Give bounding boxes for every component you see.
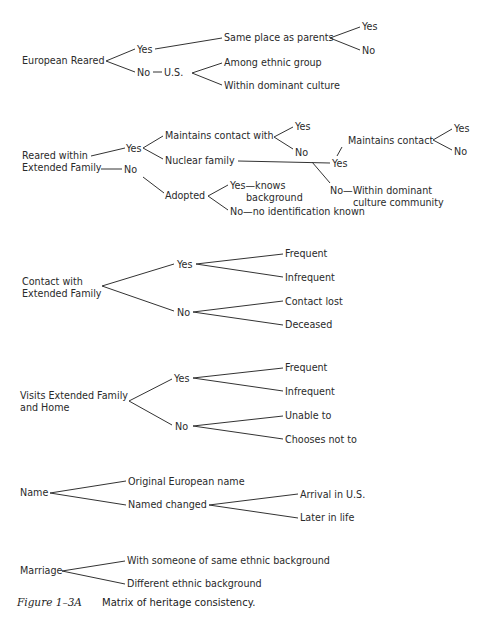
edge	[192, 63, 222, 73]
node-original: Original European name	[128, 476, 245, 487]
tree-visits: Visits Extended Family and Home Yes Freq…	[20, 362, 357, 445]
node-infrequent: Infrequent	[285, 386, 335, 397]
node-mcw-no: No	[295, 147, 308, 158]
edge	[129, 401, 172, 425]
edge	[62, 571, 125, 584]
edge	[208, 196, 228, 210]
edge	[102, 264, 174, 286]
node-us: U.S.	[164, 67, 183, 78]
node-same-place: Same place as parents	[224, 32, 334, 43]
edge	[337, 147, 342, 156]
edge	[106, 49, 135, 61]
edge	[274, 137, 293, 149]
node-mc-yes: Yes	[453, 123, 470, 134]
edge	[50, 493, 126, 505]
tree-marriage: Marriage With someone of same ethnic bac…	[20, 555, 330, 589]
node-within-dominant: Within dominant culture	[224, 80, 340, 91]
edge	[62, 561, 125, 571]
node-yes: Yes	[136, 44, 153, 55]
edge	[193, 378, 283, 391]
node-no: No	[175, 421, 188, 432]
figure-caption: Figure 1–3A Matrix of heritage consisten…	[16, 596, 255, 608]
node-same-place-no: No	[362, 45, 375, 56]
edge	[433, 140, 452, 150]
edge	[312, 162, 330, 183]
node-chooses-not: Chooses not to	[285, 434, 357, 445]
edge	[193, 301, 283, 312]
edge	[208, 185, 228, 196]
node-marriage: Marriage	[20, 565, 63, 576]
edge	[129, 379, 172, 401]
node-maintains-contact: Maintains contact	[348, 135, 433, 146]
edge	[91, 148, 125, 156]
edge	[193, 368, 283, 378]
node-unable: Unable to	[285, 410, 331, 421]
edge	[143, 136, 163, 148]
node-arrival: Arrival in U.S.	[300, 489, 365, 500]
edge	[238, 161, 330, 163]
node-infrequent: Infrequent	[285, 272, 335, 283]
edge	[143, 148, 163, 159]
node-extended-family: Extended Family	[22, 162, 102, 173]
node-nf-yes: Yes	[331, 158, 348, 169]
edge	[330, 38, 360, 50]
edge	[143, 177, 164, 193]
edge	[209, 494, 298, 505]
node-nf-no-cont: culture community	[353, 197, 444, 208]
edge	[433, 129, 452, 140]
node-later: Later in life	[300, 512, 354, 523]
node-mcw-yes: Yes	[294, 121, 311, 132]
node-nf-no: No—Within dominant	[330, 185, 432, 196]
heritage-matrix-figure: European Reared Yes Same place as parent…	[0, 0, 487, 626]
edge	[193, 416, 283, 426]
edge	[50, 481, 126, 493]
node-european-reared: European Reared	[22, 55, 105, 66]
node-frequent: Frequent	[285, 248, 328, 259]
caption-label: Figure 1–3A	[16, 596, 82, 608]
edge	[196, 264, 283, 277]
node-adopted: Adopted	[165, 190, 205, 201]
edge	[192, 73, 222, 85]
node-adopted-no: No—no identification known	[230, 206, 365, 217]
node-name: Name	[20, 487, 48, 498]
tree-contact: Contact with Extended Family Yes Frequen…	[22, 248, 343, 330]
node-no: No	[137, 67, 150, 78]
edge	[155, 38, 222, 49]
edge	[209, 505, 298, 518]
tree-name: Name Original European name Named change…	[20, 476, 365, 523]
edge	[193, 312, 283, 325]
node-visits: Visits Extended Family	[20, 390, 128, 401]
node-changed: Named changed	[128, 499, 207, 510]
node-adopted-yes: Yes—knows	[229, 180, 285, 191]
node-mc-no: No	[454, 146, 467, 157]
edge	[193, 426, 283, 439]
node-and-home: and Home	[20, 402, 70, 413]
caption-text: Matrix of heritage consistency.	[102, 597, 255, 608]
node-nuclear-family: Nuclear family	[165, 155, 235, 166]
node-adopted-yes-cont: background	[246, 192, 303, 203]
edge	[274, 127, 293, 137]
node-different-ethnic: Different ethnic background	[127, 578, 262, 589]
node-contact-with: Contact with	[22, 276, 83, 287]
tree-european-reared: European Reared Yes Same place as parent…	[22, 21, 378, 91]
edge	[102, 286, 174, 311]
node-no: No	[124, 164, 137, 175]
node-yes: Yes	[173, 373, 190, 384]
node-deceased: Deceased	[285, 319, 332, 330]
edge	[330, 27, 360, 38]
node-contact-lost: Contact lost	[285, 296, 343, 307]
node-same-place-yes: Yes	[361, 21, 378, 32]
node-among-ethnic: Among ethnic group	[224, 57, 322, 68]
edge	[196, 254, 283, 264]
edge	[106, 61, 135, 72]
node-yes: Yes	[125, 143, 142, 154]
tree-extended-family: Reared within Extended Family Yes Mainta…	[22, 121, 470, 217]
node-no: No	[177, 307, 190, 318]
node-reared-within: Reared within	[22, 150, 88, 161]
node-maintains-contact-with: Maintains contact with	[165, 130, 274, 141]
node-yes: Yes	[176, 259, 193, 270]
node-contact-extended-family: Extended Family	[22, 288, 102, 299]
node-same-ethnic: With someone of same ethnic background	[127, 555, 330, 566]
node-frequent: Frequent	[285, 362, 328, 373]
